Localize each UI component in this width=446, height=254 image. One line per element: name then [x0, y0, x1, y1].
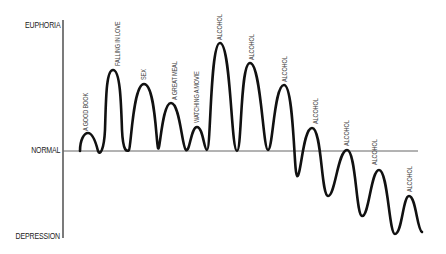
peak-label-alcohol-7: ALCOHOL	[406, 166, 413, 192]
peak-label-watching-movie: WATCHING A MOVIE	[193, 71, 200, 123]
peak-label-alcohol-6: ALCOHOL	[371, 139, 378, 165]
peak-label-alcohol-2: ALCOHOL	[248, 34, 255, 60]
depression-label: DEPRESSION	[16, 231, 60, 241]
peak-label-great-meal: A GREAT MEAL	[171, 61, 178, 100]
normal-label: NORMAL	[31, 145, 60, 155]
peak-label-falling-in-love: FALLING IN LOVE	[114, 22, 121, 66]
peak-label-good-book: A GOOD BOOK	[82, 93, 89, 131]
peak-label-sex: SEX	[140, 69, 147, 80]
peak-label-alcohol-3: ALCOHOL	[281, 56, 288, 82]
peak-label-alcohol-1: ALCOHOL	[216, 14, 223, 40]
mood-diagram	[0, 0, 446, 254]
peak-label-alcohol-5: ALCOHOL	[343, 120, 350, 146]
euphoria-label: EUPHORIA	[25, 20, 60, 30]
peak-label-alcohol-4: ALCOHOL	[312, 98, 319, 124]
